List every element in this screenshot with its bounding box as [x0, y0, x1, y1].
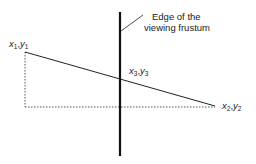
p1-sub-y: 1: [25, 43, 29, 50]
point-label-p3: x3,y3: [128, 65, 149, 77]
clipping-diagram: Edge of the viewing frustum x1,y1 x3,y3 …: [0, 0, 256, 164]
p2-sub-y: 2: [238, 105, 242, 112]
caption-leader-line: [121, 15, 143, 31]
point-label-p2: x2,y2: [221, 100, 242, 112]
p3-sub-y: 3: [145, 70, 149, 77]
caption-line-1: Edge of the: [152, 11, 201, 22]
point-label-p1: x1,y1: [8, 38, 29, 50]
caption-line-2: viewing frustum: [144, 22, 210, 33]
